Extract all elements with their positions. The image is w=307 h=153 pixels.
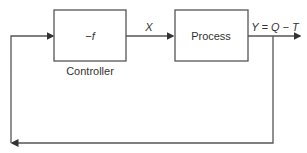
output-signal-label: Y = Q − T: [251, 21, 300, 33]
x-signal-label: X: [144, 21, 153, 33]
controller-caption: Controller: [66, 65, 114, 77]
feedback-input-arrow: [11, 36, 53, 79]
process-label: Process: [191, 30, 231, 42]
feedback-loop-diagram: −f Controller X Process Y = Q − T: [0, 0, 307, 153]
controller-function-label: −f: [85, 30, 95, 42]
